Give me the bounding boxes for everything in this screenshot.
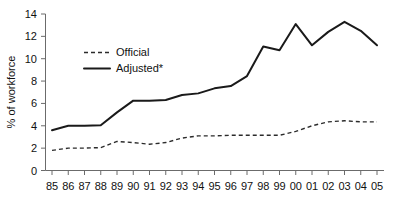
- y-tick-label: 4: [31, 120, 37, 132]
- y-tick-label: 8: [31, 75, 37, 87]
- x-tick-label: 01: [306, 180, 318, 192]
- x-tick-label: 90: [127, 180, 139, 192]
- x-axis: 8586878889909192939495969798990001020304…: [46, 171, 385, 193]
- x-axis-ticks: [52, 171, 377, 176]
- y-tick-label: 6: [31, 97, 37, 109]
- x-tick-label: 05: [371, 180, 383, 192]
- x-tick-label: 93: [176, 180, 188, 192]
- y-tick-label: 12: [25, 30, 37, 42]
- series-line-adjusted: [52, 22, 377, 130]
- x-tick-label: 91: [143, 180, 155, 192]
- x-axis-tick-labels: 8586878889909192939495969798990001020304…: [46, 180, 383, 192]
- x-tick-label: 95: [208, 180, 220, 192]
- legend-label-adjusted: Adjusted*: [116, 62, 164, 74]
- x-tick-label: 96: [225, 180, 237, 192]
- x-tick-label: 97: [241, 180, 253, 192]
- x-tick-label: 89: [111, 180, 123, 192]
- x-tick-label: 00: [290, 180, 302, 192]
- chart-plot-area: 02468101214 8586878889909192939495969798…: [0, 0, 394, 199]
- data-series-layer: [52, 22, 377, 151]
- x-tick-label: 87: [78, 180, 90, 192]
- x-tick-label: 86: [62, 180, 74, 192]
- x-tick-label: 99: [273, 180, 285, 192]
- x-tick-label: 85: [46, 180, 58, 192]
- y-tick-label: 0: [31, 165, 37, 177]
- chart-legend: Official Adjusted*: [84, 46, 164, 74]
- line-chart: 02468101214 8586878889909192939495969798…: [0, 0, 394, 199]
- y-axis-tick-labels: 02468101214: [25, 8, 37, 177]
- x-tick-label: 02: [322, 180, 334, 192]
- y-axis-title: % of workforce: [5, 56, 17, 129]
- y-axis: 02468101214: [25, 8, 46, 177]
- x-tick-label: 94: [192, 180, 204, 192]
- x-tick-label: 92: [160, 180, 172, 192]
- x-tick-label: 88: [95, 180, 107, 192]
- y-tick-label: 2: [31, 142, 37, 154]
- x-tick-label: 04: [355, 180, 367, 192]
- y-axis-ticks: [41, 14, 46, 171]
- legend-label-official: Official: [116, 46, 149, 58]
- x-tick-label: 03: [338, 180, 350, 192]
- y-tick-label: 10: [25, 53, 37, 65]
- x-tick-label: 98: [257, 180, 269, 192]
- y-tick-label: 14: [25, 8, 37, 20]
